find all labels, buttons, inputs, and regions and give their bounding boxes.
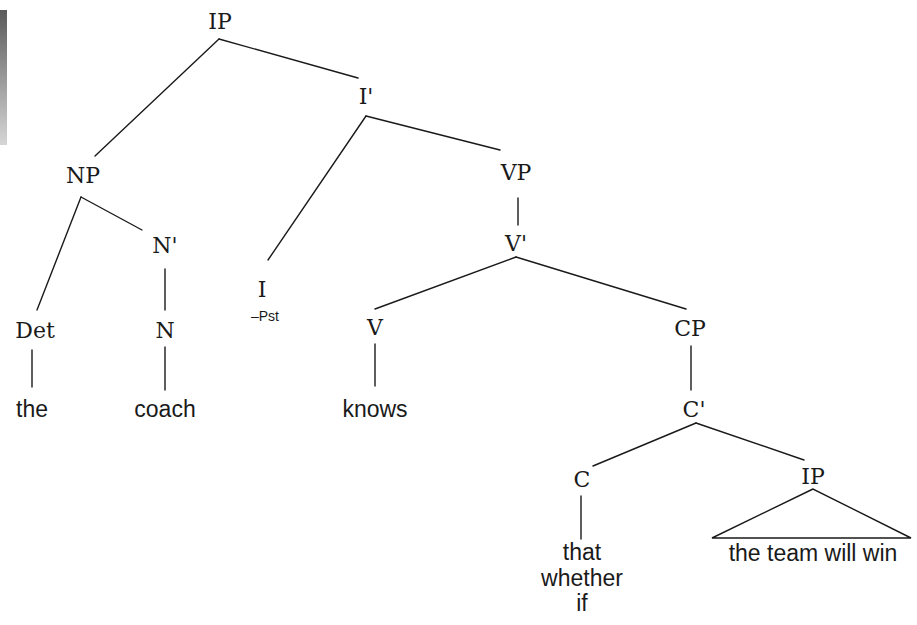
tree-edge [593, 423, 696, 466]
tree-edge [516, 257, 686, 309]
tense-feature-label: –Pst [251, 309, 279, 323]
terminal-knows: knows [342, 398, 407, 421]
node-n-head: N [155, 320, 174, 342]
node-ip-root: IP [208, 11, 232, 33]
terminal-embedded-clause: the team will win [729, 542, 898, 565]
syntax-tree-edges [0, 0, 917, 625]
terminal-coach: coach [134, 398, 195, 421]
tree-edge [81, 197, 142, 230]
terminal-whether: whether [541, 567, 623, 590]
node-cp: CP [674, 318, 706, 340]
node-det: Det [15, 320, 55, 342]
tree-edge [37, 197, 81, 310]
terminal-if: if [576, 592, 588, 615]
tree-edge [366, 116, 500, 150]
tree-edge [95, 39, 219, 156]
embedded-ip-triangle [712, 489, 911, 538]
tree-edge [268, 116, 366, 260]
node-ip-embedded: IP [801, 466, 825, 488]
node-c-bar: C' [683, 399, 706, 421]
node-i-bar: I' [359, 86, 374, 108]
node-v-head: V [367, 317, 383, 339]
node-c-head: C [574, 469, 591, 491]
node-vp: VP [501, 162, 532, 184]
terminal-the: the [16, 398, 48, 421]
tree-edge [696, 423, 804, 460]
tree-edge [219, 39, 358, 78]
node-n-bar: N' [152, 235, 177, 257]
tree-edge [375, 257, 516, 309]
node-i-head: I [258, 279, 267, 301]
node-np: NP [66, 165, 100, 187]
node-v-bar: V' [505, 233, 527, 255]
terminal-that: that [563, 541, 601, 564]
